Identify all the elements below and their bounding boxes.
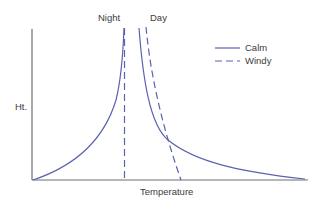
day-label: Day <box>150 13 167 23</box>
night-label: Night <box>98 13 120 23</box>
diagram-canvas <box>0 0 315 204</box>
day-windy-line <box>146 27 181 180</box>
night-calm-curve <box>33 28 124 180</box>
day-calm-curve <box>139 28 305 179</box>
y-axis-label: Ht. <box>15 102 27 112</box>
x-axis-label: Temperature <box>140 187 193 197</box>
legend-calm-label: Calm <box>245 43 267 53</box>
legend-windy-label: Windy <box>245 56 271 66</box>
